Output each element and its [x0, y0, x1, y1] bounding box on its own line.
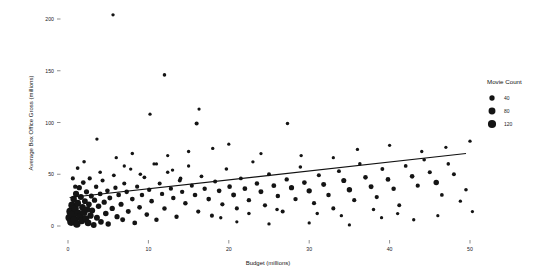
data-point — [174, 215, 178, 219]
data-point — [410, 174, 415, 179]
data-point — [196, 209, 200, 213]
data-point — [88, 176, 92, 180]
data-point — [98, 170, 102, 174]
data-point — [166, 154, 169, 157]
data-point — [135, 185, 139, 189]
size-legend-dot — [489, 108, 496, 115]
data-point — [396, 212, 399, 215]
chart-canvas: 050100150200 01020304050 Budget (million… — [0, 0, 556, 277]
size-legend-label: 80 — [504, 108, 510, 114]
data-point — [356, 148, 359, 151]
y-tick-label: 100 — [45, 120, 54, 126]
size-legend: Movie Count 4080120 — [487, 78, 522, 128]
data-point — [114, 214, 119, 219]
data-point — [464, 188, 468, 192]
data-point — [289, 185, 294, 190]
data-point — [231, 192, 236, 197]
data-point — [259, 152, 262, 155]
data-point — [89, 207, 95, 213]
data-point — [321, 182, 326, 187]
data-point — [247, 212, 251, 216]
trendline — [70, 154, 466, 198]
data-point — [71, 176, 75, 180]
data-point — [200, 174, 204, 178]
data-point — [267, 222, 270, 225]
y-tick-label: 0 — [51, 223, 54, 229]
x-axis-ticks: 01020304050 — [67, 240, 473, 252]
data-point — [420, 150, 423, 153]
data-point — [129, 167, 132, 170]
data-point — [397, 203, 401, 207]
data-point — [380, 216, 383, 219]
size-legend-label: 120 — [504, 121, 513, 127]
data-point — [227, 143, 230, 146]
data-point — [85, 220, 92, 227]
data-point — [281, 209, 285, 213]
data-point — [308, 221, 311, 224]
data-point — [180, 190, 184, 194]
data-point — [137, 205, 142, 210]
data-point — [271, 183, 276, 188]
data-point — [412, 218, 415, 221]
data-point — [404, 164, 408, 168]
data-point — [307, 188, 312, 193]
data-point — [468, 139, 471, 142]
x-tick-label: 40 — [387, 246, 393, 252]
data-point — [179, 177, 183, 181]
data-point — [158, 182, 162, 186]
data-point — [440, 193, 444, 197]
data-point — [113, 186, 117, 190]
data-point — [276, 194, 281, 199]
data-point — [155, 162, 158, 165]
data-points-layer — [65, 13, 474, 228]
data-point — [195, 121, 199, 125]
data-point — [171, 196, 176, 201]
data-point — [452, 172, 456, 176]
data-point — [286, 122, 289, 125]
data-point — [91, 222, 97, 228]
y-tick-label: 200 — [45, 16, 54, 22]
data-point — [211, 147, 214, 150]
scatter-chart: 050100150200 01020304050 Budget (million… — [0, 0, 556, 277]
data-point — [299, 165, 303, 169]
data-point — [187, 150, 190, 153]
data-point — [171, 168, 174, 171]
data-point — [348, 223, 351, 226]
data-point — [144, 212, 149, 217]
data-point — [73, 184, 77, 188]
data-point — [110, 206, 115, 211]
data-point — [163, 73, 167, 77]
size-legend-label: 40 — [504, 95, 510, 101]
data-point — [86, 201, 92, 207]
x-tick-label: 50 — [467, 246, 473, 252]
data-point — [235, 206, 239, 210]
data-point — [332, 156, 335, 159]
data-point — [187, 164, 190, 167]
data-point — [436, 214, 439, 217]
data-point — [247, 198, 251, 202]
data-point — [255, 181, 260, 186]
data-point — [162, 206, 167, 211]
size-legend-entries: 4080120 — [488, 95, 513, 128]
data-point — [123, 164, 126, 167]
data-point — [341, 178, 346, 183]
data-point — [120, 217, 125, 222]
y-axis-title: Average Box Office Gross (millions) — [28, 76, 34, 171]
data-point — [275, 208, 279, 212]
y-tick-label: 150 — [45, 68, 54, 74]
data-point — [94, 184, 99, 189]
data-point — [132, 220, 137, 225]
x-tick-label: 30 — [306, 246, 312, 252]
data-point — [107, 196, 112, 201]
data-point — [391, 186, 396, 191]
data-point — [101, 178, 105, 182]
data-point — [317, 173, 321, 177]
data-point — [103, 211, 109, 217]
data-point — [81, 180, 86, 185]
data-point — [160, 192, 164, 196]
data-point — [105, 188, 110, 193]
data-point — [235, 220, 238, 223]
data-point — [206, 197, 211, 202]
data-point — [326, 193, 331, 198]
data-point — [130, 197, 135, 202]
